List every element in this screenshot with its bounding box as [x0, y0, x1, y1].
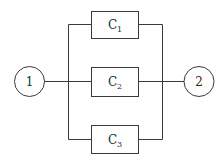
component-c3-subscript: 3 [117, 140, 122, 149]
component-c2-subscript: 2 [117, 82, 122, 91]
component-c2: C 2 [92, 68, 139, 97]
component-c1: C 1 [92, 12, 139, 39]
component-c1-letter: C [108, 18, 117, 32]
component-c2-letter: C [108, 75, 117, 89]
node-1-label: 1 [26, 75, 34, 89]
parallel-system-diagram: 1 2 C 1 C 2 C 3 [0, 0, 223, 164]
node-2: 2 [184, 67, 214, 97]
component-c3-letter: C [108, 133, 117, 147]
component-c3: C 3 [92, 126, 139, 154]
component-c1-subscript: 1 [117, 25, 122, 34]
node-1: 1 [15, 67, 45, 97]
node-2-label: 2 [195, 75, 203, 89]
